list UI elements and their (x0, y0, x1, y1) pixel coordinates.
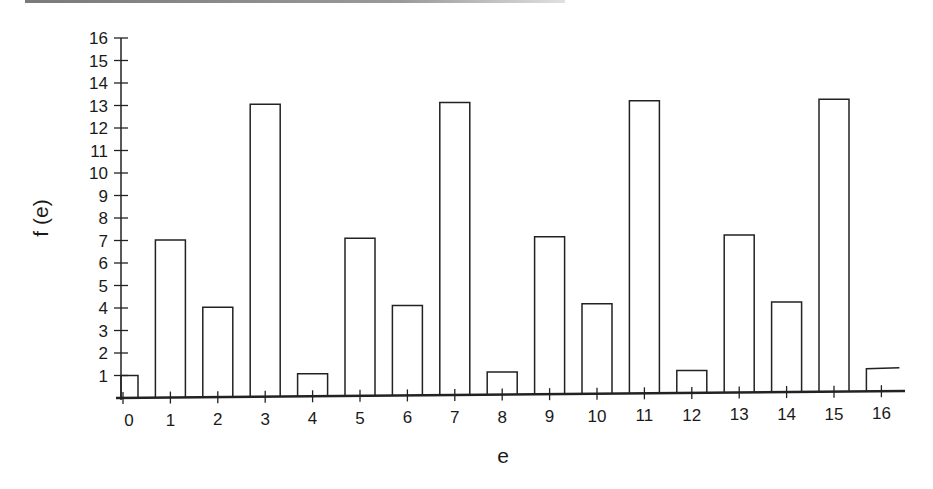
x-tick-label: 3 (260, 410, 269, 429)
x-tick-label: 8 (497, 408, 506, 427)
bar-2 (203, 307, 233, 397)
y-tick-label: 14 (89, 74, 108, 93)
y-tick-label: 6 (99, 254, 108, 273)
x-tick-label: 5 (355, 409, 364, 428)
y-axis-label: f (e) (29, 199, 52, 236)
x-tick-label: 6 (403, 408, 412, 427)
x-tick-label: 1 (166, 411, 175, 430)
bar-chart: 12345678910111213141516 0123456789101112… (0, 0, 933, 489)
bar-5 (345, 238, 375, 396)
x-tick-label: 12 (682, 406, 701, 425)
y-tick-label: 9 (99, 187, 108, 206)
y-axis: 12345678910111213141516 (89, 29, 128, 400)
x-tick-label: 15 (825, 405, 844, 424)
bar-11 (629, 101, 659, 394)
y-tick-label: 11 (90, 142, 108, 161)
y-tick-label: 1 (99, 367, 108, 386)
bar-3 (250, 104, 280, 397)
y-tick-label: 16 (89, 29, 108, 48)
bar-14 (772, 302, 802, 392)
x-tick-label: 7 (450, 408, 459, 427)
x-tick-label: 9 (545, 407, 554, 426)
bar-7 (440, 103, 470, 396)
x-tick-label: 13 (730, 405, 749, 424)
y-tick-label: 2 (99, 344, 108, 363)
y-tick-label: 10 (89, 164, 108, 183)
bar-1 (155, 240, 185, 398)
x-tick-label: 10 (588, 407, 607, 426)
y-tick-label: 13 (89, 97, 108, 116)
bars-group (121, 99, 899, 398)
bar-10 (582, 304, 612, 394)
x-tick-label: 2 (213, 410, 222, 429)
y-tick-label: 12 (89, 119, 108, 138)
x-axis-label: e (497, 444, 509, 467)
y-tick-label: 15 (89, 52, 108, 71)
x-tick-label: 14 (777, 405, 796, 424)
bar-9 (535, 237, 565, 395)
y-tick-label: 4 (99, 299, 108, 318)
y-tick-label: 5 (99, 277, 108, 296)
x-tick-label: 4 (308, 409, 317, 428)
bar-16 (866, 368, 899, 392)
y-tick-label: 7 (99, 232, 108, 251)
x-tick-label: 16 (872, 404, 891, 423)
bar-6 (392, 305, 422, 395)
y-tick-label: 3 (99, 322, 108, 341)
bar-13 (724, 235, 754, 393)
bar-15 (819, 99, 849, 392)
x-tick-label: 0 (124, 411, 133, 430)
x-tick-label: 11 (636, 406, 654, 425)
y-tick-label: 8 (99, 209, 108, 228)
